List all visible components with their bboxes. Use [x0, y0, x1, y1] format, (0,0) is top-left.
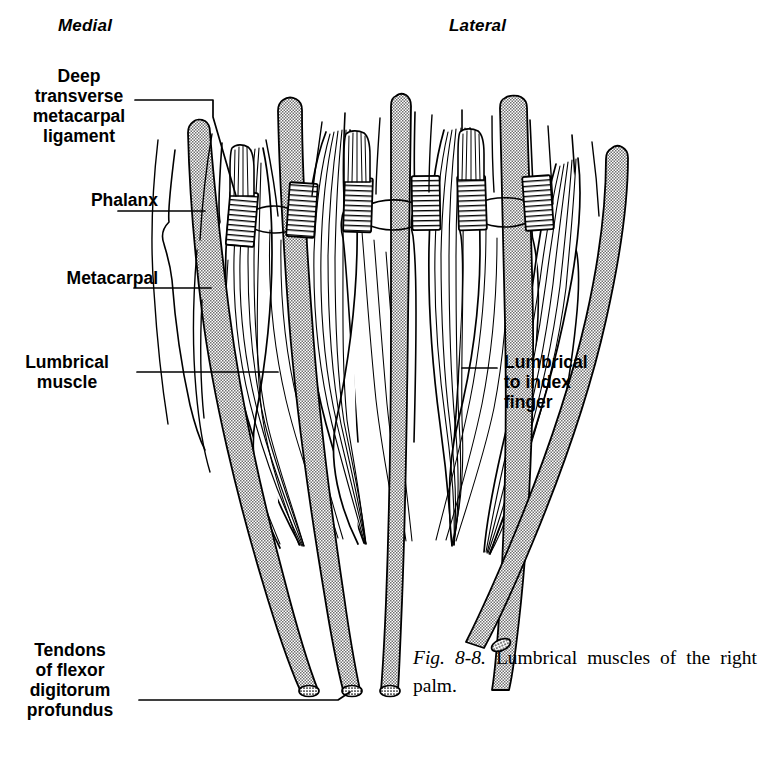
label-deep-transverse-metacarpal-ligament: Deep transverse metacarpal ligament — [0, 66, 158, 146]
dtml-band — [226, 191, 259, 247]
label-phalanx: Phalanx — [0, 190, 158, 210]
dtml-band — [522, 175, 554, 231]
orientation-label-medial: Medial — [58, 16, 112, 36]
label-lumbrical-to-index-finger: Lumbrical to index finger — [504, 352, 644, 412]
figure-caption: Fig. 8-8. Lumbrical muscles of the right… — [413, 644, 757, 700]
label-lumbrical-muscle: Lumbrical muscle — [0, 352, 134, 392]
dtml-band — [412, 176, 441, 230]
dtml-band — [343, 178, 373, 233]
orientation-label-lateral: Lateral — [449, 16, 506, 36]
figure-number: Fig. 8-8. — [413, 647, 486, 668]
dtml-band — [457, 176, 487, 231]
label-metacarpal: Metacarpal — [0, 268, 158, 288]
label-tendons-of-flexor-digitorum-profundus: Tendons of flexor digitorum profundus — [0, 640, 140, 720]
anatomical-figure: Medial Lateral Deep transverse metacarpa… — [0, 0, 777, 767]
